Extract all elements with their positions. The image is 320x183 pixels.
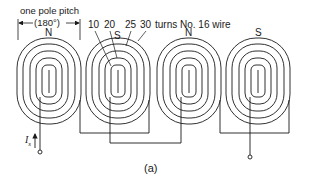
turns-label-20: 20 bbox=[104, 20, 115, 30]
turns-label-25: 25 bbox=[125, 20, 136, 30]
turns-suffix: turns No. 16 wire bbox=[155, 20, 231, 30]
terminal-right bbox=[248, 155, 252, 159]
pole-label-4: S bbox=[255, 28, 262, 38]
terminal-left bbox=[38, 150, 42, 154]
coil-4-south bbox=[226, 38, 290, 155]
figure-caption: (a) bbox=[144, 163, 157, 173]
turns-label-10: 10 bbox=[88, 20, 99, 30]
coil-2-south bbox=[86, 38, 150, 143]
pole-pitch-label: one pole pitch bbox=[20, 6, 79, 16]
coil-3-north bbox=[157, 38, 221, 143]
pole-label-2: S bbox=[114, 31, 121, 41]
connection-wires bbox=[80, 100, 289, 143]
current-label: Is bbox=[25, 135, 31, 149]
turns-label-30: 30 bbox=[140, 20, 151, 30]
pole-label-1: N bbox=[45, 28, 52, 38]
